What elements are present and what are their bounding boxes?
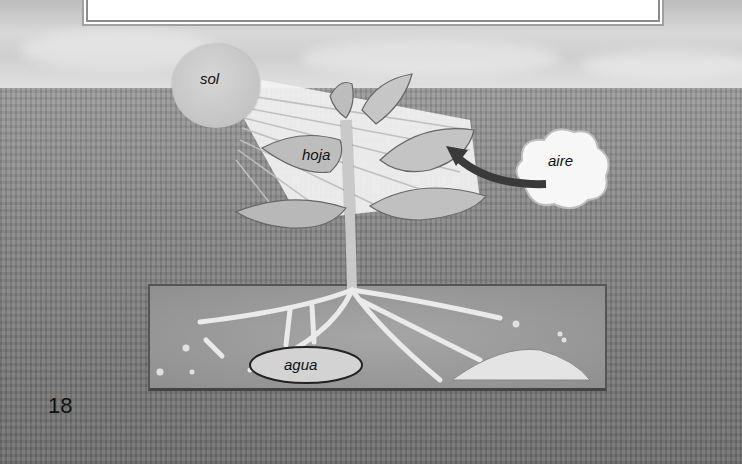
arrow-air-to-leaf — [0, 0, 742, 464]
illustration: sol hoja — [0, 0, 742, 464]
page-number: 18 — [48, 393, 72, 419]
